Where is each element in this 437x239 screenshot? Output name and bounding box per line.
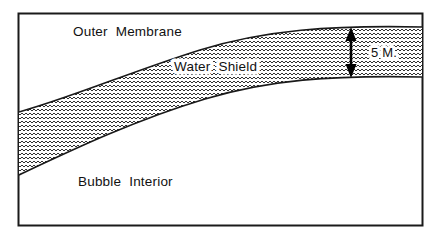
water-shield-label: Water Shield	[174, 59, 257, 74]
bubble-interior-label: Bubble Interior	[78, 174, 173, 189]
diagram-figure: 5 M. 5 M. Water Shield Water Shield Oute…	[0, 0, 437, 239]
dimension-label: 5 M.	[371, 45, 397, 60]
outer-membrane-label: Outer Membrane	[73, 24, 182, 39]
diagram-canvas: 5 M. 5 M. Water Shield Water Shield Oute…	[0, 0, 437, 239]
